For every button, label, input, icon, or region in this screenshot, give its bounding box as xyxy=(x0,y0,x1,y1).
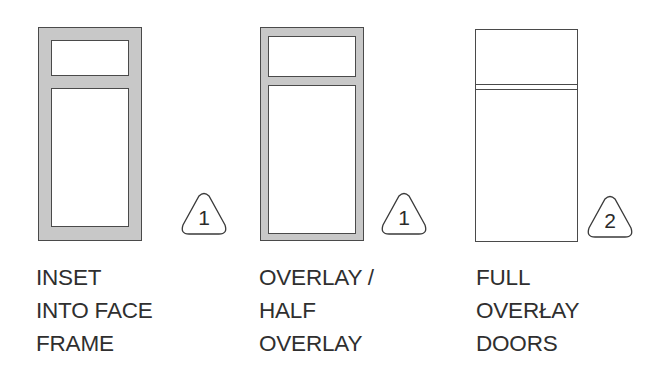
inset-lower-panel xyxy=(51,88,129,227)
label-line: FULL xyxy=(476,261,579,294)
full-overlay-door-label: FULL OVERŁAY DOORS xyxy=(476,261,579,360)
detail-tag-triangle-1: 1 xyxy=(380,192,428,236)
overlay-door-label: OVERLAY / HALF OVERLAY xyxy=(259,261,374,360)
drawer-door-gap-line-bottom xyxy=(476,89,577,90)
tag-number: 1 xyxy=(380,207,428,228)
overlay-door-elevation xyxy=(260,27,364,241)
full-overlay-door-elevation xyxy=(475,29,578,242)
label-line: OVERLAY xyxy=(259,327,374,360)
label-line: FRAME xyxy=(36,327,153,360)
tag-number: 1 xyxy=(180,207,228,228)
detail-tag-triangle-2: 2 xyxy=(586,195,634,239)
overlay-upper-panel xyxy=(268,36,356,77)
label-line: OVERŁAY xyxy=(476,294,579,327)
label-line: OVERLAY / xyxy=(259,261,374,294)
detail-tag-triangle-1: 1 xyxy=(180,192,228,236)
label-line: INTO FACE xyxy=(36,294,153,327)
drawer-door-gap-line-top xyxy=(476,84,577,85)
label-line: INSET xyxy=(36,261,153,294)
inset-door-label: INSET INTO FACE FRAME xyxy=(36,261,153,360)
overlay-lower-panel xyxy=(268,85,356,234)
inset-upper-panel xyxy=(51,40,129,76)
tag-number: 2 xyxy=(586,210,634,231)
label-line: DOORS xyxy=(476,327,579,360)
label-line: HALF xyxy=(259,294,374,327)
inset-door-elevation xyxy=(38,27,142,241)
